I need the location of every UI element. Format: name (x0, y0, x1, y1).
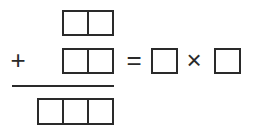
digit-cell[interactable] (216, 50, 239, 72)
addend-top-box (62, 10, 114, 36)
digit-cell[interactable] (153, 50, 176, 72)
factor-right-box (214, 48, 241, 74)
digit-cell[interactable] (87, 50, 112, 72)
digit-cell[interactable] (39, 100, 62, 123)
digit-cell[interactable] (87, 12, 112, 34)
digit-cell[interactable] (64, 50, 87, 72)
digit-cell[interactable] (64, 12, 87, 34)
factor-left-box (151, 48, 178, 74)
digit-cell[interactable] (87, 100, 112, 123)
plus-sign: + (6, 47, 30, 73)
sum-rule-line (12, 85, 114, 87)
times-sign: × (183, 47, 205, 73)
sum-box (37, 98, 114, 125)
equals-sign: = (123, 47, 145, 73)
digit-cell[interactable] (62, 100, 87, 123)
addend-bottom-box (62, 48, 114, 74)
